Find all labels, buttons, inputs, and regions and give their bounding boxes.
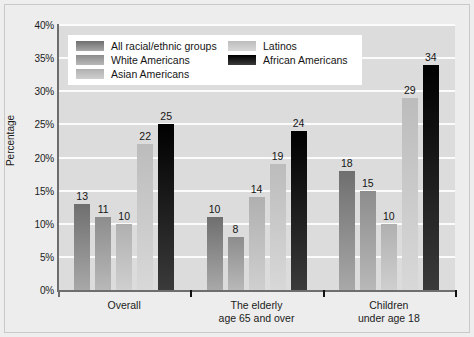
gridline [58,123,455,125]
x-axis-line [57,290,456,292]
legend-color-swatch [76,55,104,65]
legend-entry: Latinos [228,40,297,52]
legend-color-swatch [228,41,256,51]
bar-value-label: 15 [362,177,374,189]
bar-value-label: 34 [425,51,437,63]
x-axis-group-separator [455,290,457,297]
bar-value-label: 10 [383,210,395,222]
bar-value-label: 22 [139,130,151,142]
legend-color-swatch [76,69,104,79]
bar [360,191,376,290]
bar-value-label: 19 [272,150,284,162]
bar-value-label: 24 [293,117,305,129]
chart-container: 0%5%10%15%20%25%30%35%40% Percentage 131… [0,0,474,337]
y-axis-line [57,24,59,292]
bar [402,98,418,290]
gridline [58,90,455,92]
bar [116,224,132,290]
bar-value-label: 10 [209,203,221,215]
bar [137,144,153,290]
bar [339,171,355,290]
y-axis-tick-label: 40% [6,20,54,31]
y-axis-tick-label: 10% [6,218,54,229]
x-axis-end-tick [58,290,60,297]
legend-label: All racial/ethnic groups [111,40,217,52]
bar [207,217,223,290]
bar [249,197,265,290]
legend-label: Asian Americans [111,68,189,80]
bar [381,224,397,290]
bar [95,217,111,290]
legend-entry: White Americans [76,54,190,66]
x-axis-group-separator [190,290,192,297]
x-axis-group-label: The elderly age 65 and over [219,299,295,325]
bar [423,65,439,290]
legend-color-swatch [228,55,256,65]
y-axis-tick-label: 5% [6,251,54,262]
bar [228,237,244,290]
gridline [58,24,455,26]
legend-label: African Americans [263,54,348,66]
gridline [58,157,455,159]
bar-value-label: 29 [404,84,416,96]
legend-label: Latinos [263,40,297,52]
x-axis-group-label: Overall [108,299,141,312]
bar-value-label: 13 [76,190,88,202]
x-axis-group-separator [323,290,325,297]
bar-value-label: 8 [233,223,239,235]
x-axis-group-label: Children under age 18 [358,299,420,325]
legend-entry: All racial/ethnic groups [76,40,217,52]
legend-entry: African Americans [228,54,348,66]
y-axis-tick-label: 0% [6,285,54,296]
bar [158,124,174,290]
bar-value-label: 14 [251,183,263,195]
bar-value-label: 11 [98,203,109,215]
bar [291,131,307,290]
bar-value-label: 10 [118,210,130,222]
legend-color-swatch [76,41,104,51]
legend-entry: Asian Americans [76,68,189,80]
y-axis-title: Percentage [5,96,16,186]
legend-label: White Americans [111,54,190,66]
y-axis-tick-label: 35% [6,53,54,64]
bar [74,204,90,290]
legend: All racial/ethnic groupsWhite AmericansA… [68,35,362,85]
bar-value-label: 25 [160,110,172,122]
bar [270,164,286,290]
y-axis-tick-label: 15% [6,185,54,196]
bar-value-label: 18 [341,157,353,169]
